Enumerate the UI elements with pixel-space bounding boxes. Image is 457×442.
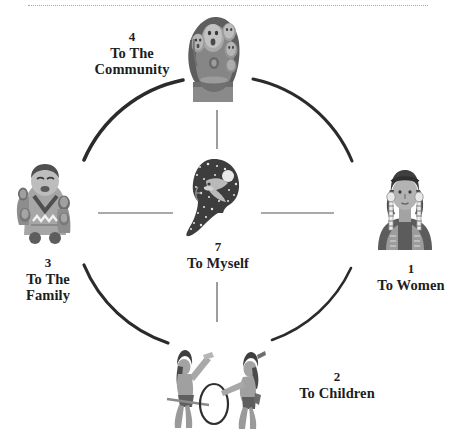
node-text-children-line1: To Children xyxy=(278,385,396,401)
node-label-myself: 7 To Myself xyxy=(165,240,271,271)
child-left xyxy=(167,350,214,428)
community-group-faces-artwork xyxy=(181,10,247,103)
node-text-myself-line1: To Myself xyxy=(165,255,271,271)
node-text-family-line2: Family xyxy=(2,287,94,303)
diagram-page: 4 To The Community 3 To The Family 1 To … xyxy=(0,0,457,442)
arc-bottom-left xyxy=(84,265,168,343)
native-woman-portrait-artwork xyxy=(372,166,438,250)
node-text-women-line1: To Women xyxy=(368,277,454,293)
node-number-family: 3 xyxy=(2,256,94,271)
node-text-community-line1: To The xyxy=(76,45,188,61)
node-text-family-line1: To The xyxy=(2,271,94,287)
node-number-women: 1 xyxy=(368,262,454,277)
node-number-myself: 7 xyxy=(165,240,271,255)
node-label-children: 2 To Children xyxy=(278,370,396,401)
arc-top-right xyxy=(253,79,352,161)
storyteller-figurine-artwork xyxy=(12,163,78,251)
profile-head-with-stars-artwork xyxy=(184,157,252,239)
node-label-family: 3 To The Family xyxy=(2,256,94,303)
node-label-community: 4 To The Community xyxy=(76,30,188,77)
node-text-community-line2: Community xyxy=(76,61,188,77)
node-label-women: 1 To Women xyxy=(368,262,454,293)
arc-top-left xyxy=(84,80,183,160)
children-playing-hoop-artwork xyxy=(163,347,267,431)
node-number-community: 4 xyxy=(76,30,188,45)
node-number-children: 2 xyxy=(278,370,396,385)
arc-bottom-right xyxy=(272,268,351,340)
child-right xyxy=(221,351,266,429)
